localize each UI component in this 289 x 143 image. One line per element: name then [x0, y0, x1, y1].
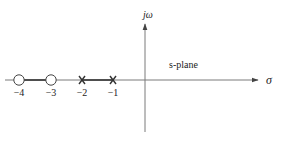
- s-plane-diagram: −4 −3 −2 −1 jω σ s-plane: [0, 0, 289, 143]
- tick-label-minus-4: −4: [14, 87, 25, 98]
- real-axis-label: σ: [266, 73, 273, 87]
- tick-label-minus-2: −2: [77, 87, 88, 98]
- zero-marker-minus-4: [14, 75, 24, 85]
- s-plane-label: s-plane: [169, 59, 198, 70]
- tick-label-minus-3: −3: [46, 87, 57, 98]
- zero-marker-minus-3: [46, 75, 56, 85]
- tick-label-minus-1: −1: [108, 87, 119, 98]
- imaginary-axis-label: jω: [141, 9, 153, 20]
